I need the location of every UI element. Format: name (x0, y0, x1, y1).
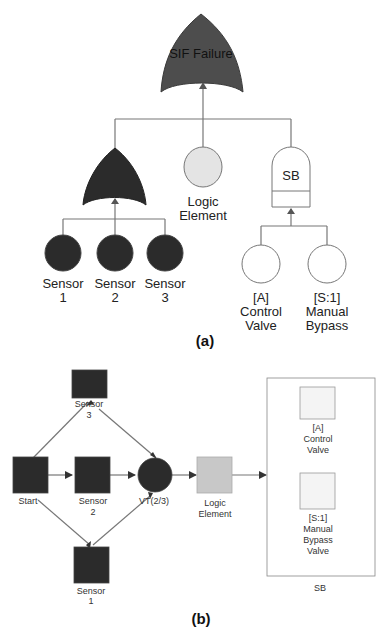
sensor-2-label-2: 2 (111, 290, 118, 305)
arrowhead-icon (111, 198, 119, 204)
fault-tree-figure: SIF Failure Logic Element SB (0, 0, 388, 634)
manual-bypass-b-label-3: Bypass (303, 535, 333, 545)
sb-container-label: SB (314, 583, 326, 593)
sensor-3-event[interactable]: Sensor 3 (144, 235, 186, 305)
logic-element-event[interactable]: Logic Element (179, 147, 227, 223)
sensor-1-b-label-2: 1 (88, 596, 93, 606)
sb-spare-gate[interactable]: SB (272, 147, 310, 207)
sensor-1-block[interactable]: Sensor 1 (74, 547, 109, 606)
logic-element-b-label-2: Element (198, 509, 232, 519)
sensor-1-b-label-1: Sensor (77, 586, 106, 596)
connector (33, 402, 88, 458)
manual-bypass-b-label-1: [S:1] (309, 513, 328, 523)
sensor-or-gate[interactable] (83, 148, 146, 205)
control-valve-b-label-3: Valve (307, 445, 329, 455)
sensor-1-event[interactable]: Sensor 1 (42, 235, 84, 305)
manual-bypass-label-1: [S:1] (314, 290, 341, 305)
manual-bypass-label-3: Bypass (306, 318, 349, 333)
logic-element-label-1: Logic (187, 194, 219, 209)
caption-a: (a) (196, 332, 214, 349)
diagram-a: SIF Failure Logic Element SB (42, 14, 348, 349)
sb-container[interactable]: SB [A] Control Valve [S:1] Manual Bypass… (267, 378, 375, 593)
sensor-1-label-1: Sensor (42, 276, 84, 291)
connector (38, 500, 90, 545)
diagram-b: Sensor 3 Start Sensor 2 VT(2/3) Logic El… (13, 370, 375, 627)
sensor-3-label-1: Sensor (144, 276, 186, 291)
caption-b: (b) (191, 610, 210, 627)
arrowhead-icon (287, 208, 295, 214)
logic-element-block[interactable]: Logic Element (197, 457, 232, 519)
voter-label: VT(2/3) (139, 496, 169, 506)
sb-label: SB (282, 168, 299, 183)
start-block[interactable]: Start (13, 457, 48, 506)
manual-bypass-event[interactable]: [S:1] Manual Bypass (306, 245, 349, 333)
sensor-2-b-label-2: 2 (90, 507, 95, 517)
connector (99, 409, 155, 457)
sif-failure-label: SIF Failure (169, 46, 233, 61)
manual-bypass-b-label-4: Valve (307, 546, 329, 556)
sif-failure-gate[interactable]: SIF Failure (161, 14, 243, 92)
sensor-2-event[interactable]: Sensor 2 (94, 235, 136, 305)
sensor-2-label-1: Sensor (94, 276, 136, 291)
control-valve-b-label-2: Control (303, 434, 332, 444)
sensor-2-b-label-1: Sensor (79, 496, 108, 506)
logic-element-label-2: Element (179, 208, 227, 223)
sensor-3-b-label-2: 3 (86, 410, 91, 420)
control-valve-b-label-1: [A] (312, 423, 323, 433)
sensor-2-block[interactable]: Sensor 2 (75, 457, 110, 517)
control-valve-label-3: Valve (245, 318, 277, 333)
control-valve-label-2: Control (240, 304, 282, 319)
control-valve-label-1: [A] (253, 290, 269, 305)
manual-bypass-label-2: Manual (306, 304, 349, 319)
sensor-3-label-2: 3 (161, 290, 168, 305)
sensor-3-b-label-1: Sensor (75, 399, 104, 409)
voter-2of3-node[interactable]: VT(2/3) (138, 458, 172, 506)
logic-element-b-label-1: Logic (204, 498, 226, 508)
start-label: Start (18, 496, 38, 506)
control-valve-event[interactable]: [A] Control Valve (240, 245, 282, 333)
manual-bypass-b-label-2: Manual (303, 524, 333, 534)
sensor-1-label-2: 1 (59, 290, 66, 305)
